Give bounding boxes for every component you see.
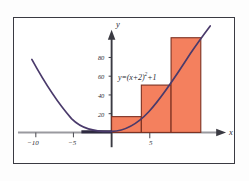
y-tick-label-40: 40 [98,93,104,100]
y-axis-label: y [116,20,120,29]
equation-base: y=(x+2) [118,73,145,82]
figure-container: 20 40 60 80 −10 −5 5 y x y=(x+2)2+1 [0,0,249,181]
x-tick-label-minus5: −5 [68,140,76,147]
equation-label: y=(x+2)2+1 [118,72,156,82]
figure-frame: 20 40 60 80 −10 −5 5 y x y=(x+2)2+1 [13,17,235,164]
riemann-bar [141,85,171,132]
y-tick-label-60: 60 [98,74,104,81]
x-tick-label-5: 5 [149,140,153,147]
riemann-bar [171,38,201,133]
x-axis-arrow [216,129,226,136]
equation-tail: +1 [147,73,156,82]
y-axis-arrow [108,30,116,40]
graph-canvas [14,18,234,163]
y-tick-label-20: 20 [98,112,104,119]
x-tick-label-minus10: −10 [27,140,39,147]
y-tick-label-80: 80 [98,55,104,62]
x-axis-label: x [229,128,233,137]
riemann-bar [112,117,142,133]
riemann-rectangles [112,38,201,133]
